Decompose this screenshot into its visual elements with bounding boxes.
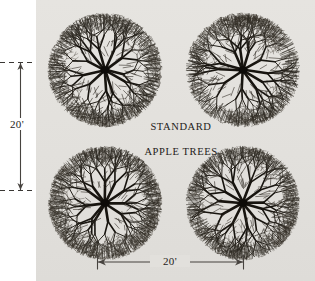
vertical-dimension-label: 20': [0, 118, 34, 130]
caption-line-2: APPLE TREES: [138, 146, 224, 159]
caption-line-1: STANDARD: [138, 121, 224, 134]
apple-tree-spacing-figure: STANDARD APPLE TREES 20' 20': [0, 0, 315, 281]
horizontal-dimension-label: 20': [150, 255, 190, 267]
caption-standard-apple-trees: STANDARD APPLE TREES: [138, 108, 224, 171]
